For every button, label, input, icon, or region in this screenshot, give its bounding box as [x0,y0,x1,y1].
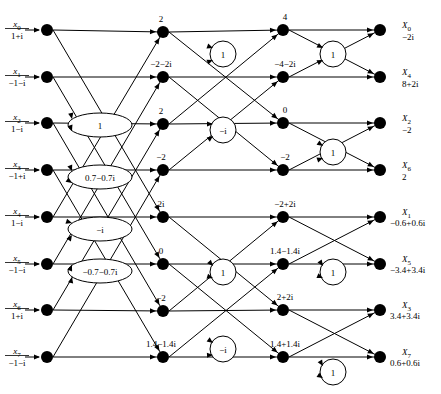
input-label: x6 [12,299,21,312]
edge-arrowhead [367,120,373,125]
edge-arrowhead [34,167,40,172]
output-node [374,304,386,316]
stage2-node [157,211,169,223]
input-label: x1 [12,66,21,79]
stage2-node [157,258,169,270]
output-value: 2 [402,172,407,182]
twiddle-label: 1 [331,368,336,378]
edge-arrowhead [34,74,40,79]
stage3-node [277,351,289,363]
input-node [41,164,53,176]
input-node [41,211,53,223]
input-value: 1+i [11,31,24,41]
stage2-value: −2 [156,152,166,162]
edge-arrowhead [154,83,159,89]
fft-butterfly-diagram: 10.7−0.7i−i−0.7−0.7i1−i1−i1111 x01+ix1−1… [0,0,441,394]
output-value: 3.4+3.4i [390,311,421,321]
edge-arrowhead [316,43,323,48]
stage3-node [277,258,289,270]
edge-arrowhead [367,354,373,359]
input-value: −1−i [8,265,26,275]
edge-arrowhead [270,261,276,266]
input-label: x7 [12,346,21,359]
output-value: −2 [402,125,412,135]
stage2-value: −2 [156,293,166,303]
input-node [41,117,53,129]
edge-arrowhead [270,308,276,313]
edge-arrowhead [318,360,323,366]
input-node [41,258,53,270]
edge-arrowhead [34,354,40,359]
output-node [374,211,386,223]
edge-arrowhead [317,260,323,266]
edge-arrowhead [317,140,323,146]
input-label: x4 [12,206,21,219]
stage3-node [277,211,289,223]
input-node [41,71,53,83]
twiddle-label: 1 [221,50,226,60]
stage3-value: 1.4+1.4i [270,339,301,349]
stage2-node [157,118,169,130]
edge-arrowhead [150,214,156,219]
twiddle-label: 1 [331,50,336,60]
edge-arrowhead [150,308,156,313]
output-node [374,351,386,363]
stage3-value: −2 [280,152,290,162]
stage2-value: 2 [159,106,164,116]
edge-arrowhead [150,261,156,266]
edge-arrowhead [34,261,40,266]
output-label: X2 [401,113,412,126]
input-value: 1−i [11,124,24,134]
output-label: X6 [401,160,412,173]
stage3-node [277,24,289,36]
stage3-value: 1.4−1.4i [270,246,301,256]
twiddle-label: 1 [331,148,336,158]
edge-arrowhead [270,167,276,172]
stage3-value: −2+2i [274,199,296,209]
twiddle-label: 0.7−0.7i [85,173,116,183]
edge-arrowhead [34,214,40,219]
twiddle-label: 1 [221,268,226,278]
input-label: x5 [12,253,21,266]
stage2-node [157,164,169,176]
input-label: x3 [12,159,21,172]
stage3-value: 0 [283,105,288,115]
input-value: −1−i [8,78,26,88]
edge-arrowhead [150,74,156,79]
stage2-node [157,26,169,38]
edge-arrowhead [65,219,72,224]
edge-arrowhead [367,167,373,172]
twiddle-label: −i [219,126,227,136]
edge-arrowhead [206,44,213,49]
stage2-value: 2i [157,199,165,209]
twiddle-label: −i [219,345,227,355]
stage2-value: 0 [159,246,164,256]
edge-arrowhead [270,28,276,33]
edge-stage1 [53,30,163,32]
stage3-node [277,164,289,176]
edge-arrowhead [270,354,276,359]
stage3-value: 2+2i [277,292,294,302]
input-label: x0 [12,19,21,32]
stage3-value: 4 [283,12,288,22]
edge-stage2 [169,30,283,32]
edge-arrowhead [150,121,156,126]
edge-stage1 [53,310,163,311]
stage3-node [277,71,289,83]
input-value: 1−i [11,218,24,228]
edge-layer [25,27,380,359]
edge-arrowhead [270,74,276,79]
edge-arrowhead [207,260,213,266]
output-label: X4 [401,67,412,80]
edge-arrowhead [367,261,373,266]
stage3-value: −4−2i [274,59,296,69]
output-node [374,164,386,176]
output-value: 8+2i [402,79,419,89]
stage2-node [157,305,169,317]
stage3-node [277,304,289,316]
stage2-node [157,351,169,363]
input-value: −1+i [8,171,26,181]
stage2-value: −2−2i [150,59,172,69]
edge-arrowhead [34,27,40,32]
edge-arrowhead [367,307,373,312]
